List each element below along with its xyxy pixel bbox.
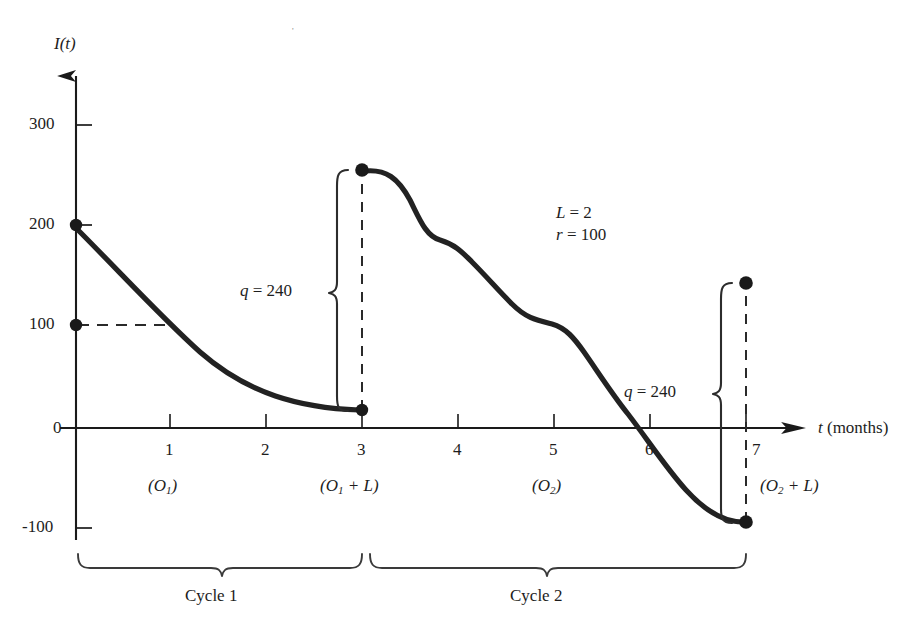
scan-speck: ' <box>292 26 294 36</box>
y-tick-label-neg100: -100 <box>22 517 53 537</box>
start-dot <box>70 219 82 231</box>
cycle2-end-dot <box>739 515 753 529</box>
cycle1-end-dot <box>356 404 368 416</box>
order-quantity-label-1-name: q <box>240 281 249 300</box>
cycle3-start-dot <box>739 276 753 290</box>
cycle-1-brace <box>78 554 362 576</box>
param-lead-time-value: 2 <box>583 203 592 222</box>
order-quantity-label-1-eq: = <box>253 281 263 300</box>
param-lead-time-eq: = <box>569 203 579 222</box>
figure-canvas: I(t) 300 200 100 0 -100 1 2 3 4 5 6 7 t … <box>0 0 916 626</box>
order-marker-O2L-pre: (O <box>760 476 778 495</box>
order-marker-O2-pre: (O <box>532 476 550 495</box>
order-marker-O1L-pre: (O <box>320 476 338 495</box>
x-tick-label-1: 1 <box>165 440 174 460</box>
x-axis-title-var: t <box>818 418 823 437</box>
order-marker-O1L: (O1 + L) <box>320 476 379 496</box>
cycle-2-brace <box>370 554 746 576</box>
param-demand-rate-value: 100 <box>581 225 607 244</box>
order-marker-O1: (O1) <box>148 476 177 496</box>
order-marker-O2-post: ) <box>555 476 561 495</box>
param-lead-time: L = 2 <box>556 202 592 224</box>
order-marker-O2L-post: + L) <box>783 476 818 495</box>
reorder-level-dot <box>70 319 82 331</box>
order-quantity-label-2-eq: = <box>637 382 647 401</box>
order-quantity-label-2-value: 240 <box>651 382 677 401</box>
order-marker-O2L: (O2 + L) <box>760 476 819 496</box>
param-demand-rate-eq: = <box>567 225 577 244</box>
x-tick-label-7: 7 <box>752 440 761 460</box>
order-quantity-label-1-value: 240 <box>267 281 293 300</box>
x-axis <box>60 414 800 428</box>
order-marker-O1-pre: (O <box>148 476 166 495</box>
x-axis-title-unit: (months) <box>827 418 888 437</box>
y-tick-label-300: 300 <box>29 114 55 134</box>
param-lead-time-name: L <box>556 203 565 222</box>
y-tick-label-100: 100 <box>29 314 55 334</box>
data-point-markers <box>70 163 753 529</box>
x-tick-label-3: 3 <box>357 440 366 460</box>
chart-svg <box>0 0 916 626</box>
order-quantity-label-2-name: q <box>624 382 633 401</box>
param-demand-rate: r = 100 <box>556 224 606 246</box>
order-marker-O1L-post: + L) <box>343 476 378 495</box>
x-tick-label-6: 6 <box>645 440 654 460</box>
cycle-2-label: Cycle 2 <box>510 586 562 606</box>
cycle1-curve <box>76 228 359 410</box>
order-marker-O1-post: ) <box>171 476 177 495</box>
param-demand-rate-name: r <box>556 225 563 244</box>
order-quantity-brace-1 <box>329 170 348 411</box>
y-tick-label-200: 200 <box>29 214 55 234</box>
x-axis-title: t (months) <box>818 418 888 438</box>
y-tick-label-0: 0 <box>53 418 62 438</box>
cycle2-curve <box>365 171 743 522</box>
order-quantity-brace-2 <box>713 283 732 523</box>
x-tick-label-5: 5 <box>549 440 558 460</box>
x-tick-label-4: 4 <box>453 440 462 460</box>
cycle-1-label: Cycle 1 <box>185 586 237 606</box>
y-axis-title: I(t) <box>54 34 76 54</box>
order-marker-O2: (O2) <box>532 476 561 496</box>
cycle2-start-dot <box>355 163 369 177</box>
order-quantity-label-2: q = 240 <box>624 381 676 403</box>
x-tick-label-2: 2 <box>261 440 270 460</box>
y-axis <box>76 76 92 540</box>
order-quantity-label-1: q = 240 <box>240 280 292 302</box>
